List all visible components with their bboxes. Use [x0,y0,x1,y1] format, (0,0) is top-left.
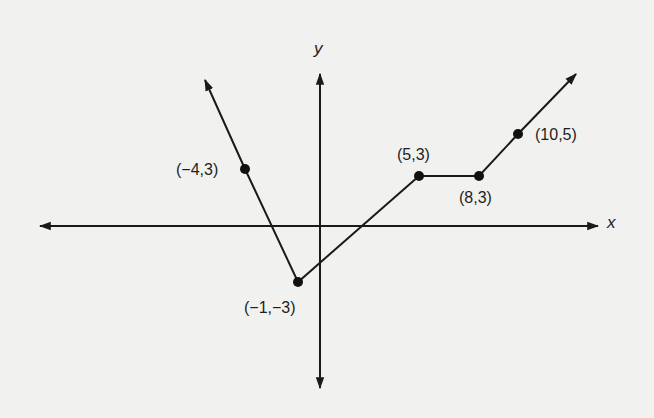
point-label: (5,3) [397,147,430,163]
point-10-5 [513,129,523,139]
point-5-3 [414,171,424,181]
point-8-3 [474,171,484,181]
point-label: (10,5) [535,127,577,143]
x-axis-label: x [607,214,616,231]
point-neg4-3 [240,164,250,174]
point-label: (8,3) [459,190,492,206]
graph-canvas [0,0,654,418]
point-label: (−1,−3) [244,300,296,316]
point-neg1-neg3 [293,277,303,287]
function-graph [205,74,576,282]
graph-diagram: y x (−4,3) (−1,−3) (5,3) (8,3) (10,5) [0,0,654,418]
y-axis-label: y [314,40,323,57]
point-label: (−4,3) [176,162,218,178]
